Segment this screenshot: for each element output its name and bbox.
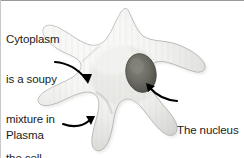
plasma-membrane-label: Plasma membrane: [6, 103, 60, 158]
cytoplasm-label-line-2: is a soupy: [6, 73, 59, 86]
plasma-membrane-label-line-1: Plasma: [6, 129, 60, 142]
amoeba-cell-diagram-image: Cytoplasm is a soupy mixture in the cell…: [0, 0, 244, 158]
nucleus-label: The nucleus controls the cell.: [177, 98, 239, 158]
cytoplasm-label-line-1: Cytoplasm: [6, 33, 59, 46]
nucleus-label-line-1: The nucleus: [177, 124, 239, 137]
